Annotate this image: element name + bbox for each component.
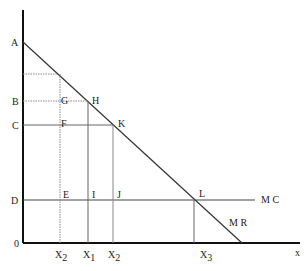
label-e: E (63, 189, 69, 200)
label-l: L (199, 188, 205, 199)
label-j: J (117, 189, 121, 200)
label-i: I (92, 189, 95, 200)
label-x2-right: X2 (108, 249, 120, 263)
label-h: H (92, 95, 99, 106)
label-d: D (11, 195, 18, 206)
label-f: F (61, 118, 67, 129)
label-mc: M C (261, 194, 279, 205)
label-x-axis: x (295, 247, 300, 258)
label-c: C (12, 120, 19, 131)
label-x2-left: X2 (55, 249, 67, 263)
label-x1: X1 (83, 249, 95, 263)
mr-line (23, 42, 242, 243)
label-x3: X3 (200, 249, 212, 263)
label-origin: 0 (14, 238, 19, 249)
monopoly-diagram: A B C D 0 G H F K E I J L M C M R X2 X1 … (0, 0, 308, 271)
label-k: K (118, 118, 126, 129)
label-b: B (12, 96, 19, 107)
label-mr: M R (229, 217, 247, 228)
label-g: G (61, 95, 68, 106)
label-a: A (11, 37, 19, 48)
